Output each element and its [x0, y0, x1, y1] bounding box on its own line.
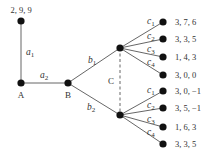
payoff-upper-1: 3, 7, 6 — [175, 17, 196, 27]
edge-upper-c1 — [120, 22, 163, 48]
node-b — [64, 79, 71, 86]
edge-lower-c3 — [120, 115, 163, 127]
edge-b1-label: b1 — [88, 55, 97, 67]
payoff-upper-3: 1, 4, 3 — [175, 52, 196, 62]
edge-b2-label: b2 — [87, 102, 96, 114]
edge-lower-c1-label: c1 — [147, 85, 155, 97]
leaf-upper-2 — [159, 35, 166, 42]
payoff-lower-3: 1, 6, 3 — [175, 122, 196, 132]
root-payoff-label: 2, 9, 9 — [10, 5, 31, 15]
edge-lower-c4 — [120, 115, 163, 144]
edge-a1-label: a1 — [26, 47, 35, 59]
leaf-upper-3 — [159, 53, 166, 60]
edge-upper-c2 — [120, 39, 163, 48]
edge-a2-label: a2 — [40, 70, 49, 82]
root-payoff-node — [17, 17, 24, 24]
leaf-lower-2 — [159, 104, 166, 111]
edge-lower-c4-label: c4 — [147, 127, 155, 139]
node-b-label: B — [65, 90, 71, 100]
payoff-upper-4: 3, 0, 0 — [175, 70, 196, 80]
leaf-upper-4 — [159, 71, 166, 78]
information-set-label: C — [108, 76, 114, 86]
payoff-lower-2: 3, 5, −1 — [175, 103, 201, 113]
payoff-lower-1: 3, 0, −1 — [175, 86, 201, 96]
node-a-label: A — [18, 90, 25, 100]
node-a — [17, 79, 24, 86]
leaf-upper-1 — [159, 18, 166, 25]
leaf-lower-4 — [159, 140, 166, 147]
edges — [21, 21, 163, 144]
nodes — [17, 17, 166, 147]
game-tree-diagram: 2, 9, 9 A B C a1 a2 b1 b2 c1 c2 c3 c4 c1… — [0, 0, 211, 159]
node-c-upper — [116, 44, 123, 51]
node-c-lower — [116, 111, 123, 118]
edge-lower-c3-label: c3 — [147, 114, 155, 126]
edge-upper-c2-label: c2 — [147, 31, 155, 43]
payoff-upper-2: 3, 3, 5 — [175, 34, 196, 44]
edge-upper-c4-label: c4 — [147, 57, 155, 69]
leaf-lower-3 — [159, 123, 166, 130]
leaf-lower-1 — [159, 87, 166, 94]
edge-upper-c1-label: c1 — [147, 16, 155, 28]
payoff-lower-4: 3, 3, 5 — [175, 139, 196, 149]
